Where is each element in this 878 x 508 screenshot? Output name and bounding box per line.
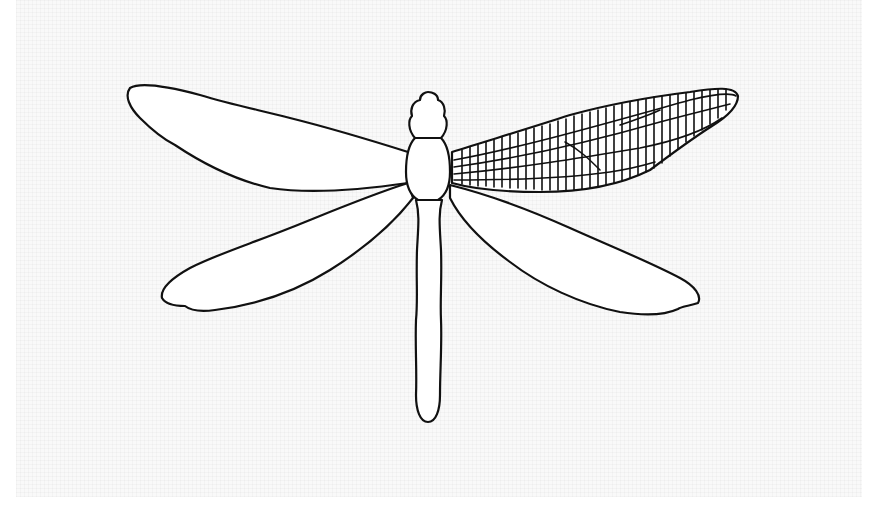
- head: [409, 92, 446, 138]
- upper-left-wing: [128, 85, 408, 191]
- dragonfly-illustration: [0, 0, 878, 508]
- thorax: [406, 138, 450, 200]
- abdomen: [416, 200, 442, 422]
- upper-right-wing: [452, 89, 738, 192]
- lower-left-wing: [162, 183, 413, 311]
- lower-right-wing: [450, 185, 699, 314]
